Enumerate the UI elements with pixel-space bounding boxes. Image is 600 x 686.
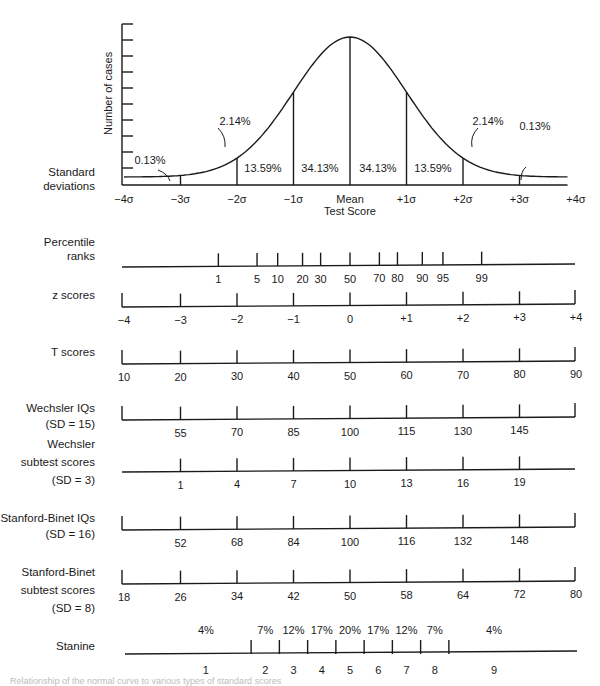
segment-percent: 0.13% (519, 120, 550, 132)
stanine-percent: 4% (198, 624, 214, 636)
stanine-number: 6 (375, 664, 381, 676)
segment-percent: 2.14% (472, 115, 503, 127)
arrow-icon (158, 170, 170, 181)
segment-percent: 13.59% (414, 162, 452, 174)
segment-percent: 0.13% (134, 154, 165, 166)
scale-tick-label: 34 (231, 590, 243, 602)
scale-tick-label: 50 (344, 370, 356, 382)
scale-row-label: Percentile (44, 236, 95, 248)
stanine-percent: 7% (427, 624, 443, 636)
scale-tick-label: 80 (391, 272, 403, 284)
stanine-axis-line (125, 651, 577, 654)
scale-row-label: Stanford-Binet (21, 566, 95, 578)
sd-tick-label: −1σ (284, 193, 304, 205)
scale-tick-label: 50 (344, 590, 356, 602)
scale-tick-label: 42 (287, 590, 299, 602)
row-label: deviations (43, 180, 95, 192)
scale-tick-label: 26 (174, 591, 186, 603)
scale-tick-label: 18 (118, 591, 130, 603)
sd-tick-label: −3σ (171, 193, 191, 205)
scale-row-label: ranks (67, 250, 95, 262)
sd-tick-label: −2σ (227, 193, 247, 205)
scale-tick-label: 16 (457, 477, 469, 489)
stanine-percent: 7% (257, 624, 273, 636)
scale-tick-label: 1 (177, 479, 183, 491)
segment-percent: 2.14% (219, 115, 250, 127)
scale-tick-label: 19 (513, 476, 525, 488)
stanine-number: 5 (347, 664, 353, 676)
scale-tick-label: 64 (457, 589, 469, 601)
arrow-icon (472, 128, 478, 147)
scale-tick-label: +1 (400, 312, 413, 324)
scale-row-label: subtest scores (21, 456, 95, 468)
scale-tick-label: 80 (570, 588, 582, 600)
scale-axis-line (122, 581, 575, 584)
sd-tick-label: Mean (336, 193, 364, 205)
scale-tick-label: 145 (510, 424, 528, 436)
scale-tick-label: 50 (344, 273, 356, 285)
figure-caption: Relationship of the normal curve to vari… (10, 676, 281, 686)
scale-tick-label: 40 (287, 370, 299, 382)
scale-tick-label: 85 (287, 426, 299, 438)
scale-tick-label: 70 (457, 369, 469, 381)
scale-tick-label: +2 (457, 312, 470, 324)
x-axis-label: Test Score (324, 205, 376, 217)
scale-tick-label: −3 (174, 314, 187, 326)
scale-tick-label: 60 (400, 369, 412, 381)
scale-row-label: subtest scores (21, 584, 95, 596)
scale-tick-label: 10 (118, 371, 130, 383)
stanine-percent: 12% (395, 624, 417, 636)
sd-tick-label: −4σ (114, 193, 134, 205)
sd-tick-label: +3σ (510, 193, 530, 205)
stanine-percent: 12% (282, 624, 304, 636)
scale-row-label: (SD = 15) (45, 418, 95, 430)
scale-tick-label: 100 (341, 536, 359, 548)
stanine-number: 7 (403, 664, 409, 676)
scale-tick-label: 30 (231, 370, 243, 382)
stanine-number: 1 (203, 664, 209, 676)
scale-tick-label: 4 (234, 478, 240, 490)
scale-tick-label: 0 (347, 313, 353, 325)
stanine-percent: 20% (339, 624, 361, 636)
scale-row-label: (SD = 8) (52, 602, 95, 614)
arrow-icon (218, 128, 225, 147)
scale-tick-label: 10 (272, 273, 284, 285)
scale-row-label: T scores (51, 346, 95, 358)
scale-tick-label: 58 (400, 589, 412, 601)
scale-tick-label: 95 (437, 272, 449, 284)
scale-tick-label: 20 (174, 371, 186, 383)
segment-percent: 13.59% (244, 162, 282, 174)
scale-row-label: Stanford-Binet IQs (0, 512, 95, 524)
sd-tick-label: +2σ (453, 193, 473, 205)
stanine-percent: 17% (311, 624, 333, 636)
scale-tick-label: 70 (231, 426, 243, 438)
scale-tick-label: −4 (118, 314, 131, 326)
stanine-number: 9 (491, 664, 497, 676)
scale-tick-label: 55 (174, 427, 186, 439)
scale-tick-label: 70 (373, 272, 385, 284)
scale-tick-label: 84 (287, 536, 299, 548)
y-axis-label: Number of cases (102, 51, 114, 135)
scale-tick-label: 100 (341, 426, 359, 438)
scale-tick-label: 7 (290, 478, 296, 490)
stanine-number: 2 (262, 664, 268, 676)
stanine-number: 8 (432, 664, 438, 676)
scale-tick-label: 116 (398, 535, 416, 547)
scale-tick-label: 52 (174, 537, 186, 549)
scale-tick-label: −2 (231, 313, 244, 325)
scale-tick-label: 68 (231, 536, 243, 548)
scale-tick-label: 20 (296, 273, 308, 285)
scale-tick-label: 99 (476, 272, 488, 284)
sd-tick-label: +4σ (566, 193, 586, 205)
stanine-percent: 4% (486, 624, 502, 636)
scale-tick-label: 90 (570, 368, 582, 380)
scale-tick-label: 148 (510, 534, 528, 546)
scale-axis-line (122, 469, 575, 472)
arrow-icon (521, 167, 526, 180)
normal-curve (124, 37, 568, 177)
scale-tick-label: −1 (287, 313, 300, 325)
scale-axis-line (122, 417, 575, 420)
scale-tick-label: 80 (513, 368, 525, 380)
stanine-number: 4 (319, 664, 325, 676)
